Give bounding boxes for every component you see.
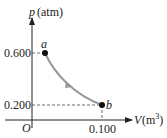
x-axis-unit: (m3) [142, 112, 163, 127]
point-b [99, 102, 105, 108]
direction-arrow-icon [65, 81, 73, 88]
pv-diagram: p (atm) V (m3) O 0.600 0.200 0.100 a b [0, 0, 167, 138]
y-tick-0200: 0.200 [4, 98, 31, 112]
y-tick-0600: 0.600 [4, 46, 31, 60]
x-tick-0100: 0.100 [89, 122, 116, 136]
origin-label: O [22, 121, 31, 135]
y-axis-unit: (atm) [37, 5, 63, 19]
y-axis-symbol: p [28, 5, 35, 19]
point-b-label: b [106, 98, 112, 112]
process-curve [45, 53, 102, 105]
point-a-label: a [41, 37, 47, 51]
